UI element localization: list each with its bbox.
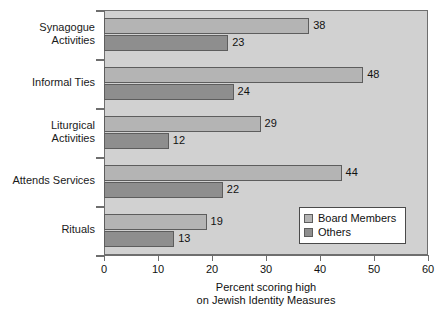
legend-swatch-icon-others: [304, 228, 313, 237]
legend-label-board-members: Board Members: [318, 213, 396, 224]
y-axis-tick: [96, 59, 104, 61]
x-axis-tick-label: 60: [413, 263, 443, 275]
x-axis-line: [104, 255, 428, 256]
x-axis-title-line-2: on Jewish Identity Measures: [104, 294, 428, 307]
legend-swatch-icon-board-members: [304, 214, 313, 223]
x-axis-tick-label: 40: [305, 263, 335, 275]
bar-0-4: [104, 214, 207, 230]
y-axis-tick: [96, 157, 104, 159]
x-axis-tick-label: 30: [251, 263, 281, 275]
x-axis-tick: [428, 255, 429, 261]
bar-chart: Synagogue Activities3823Informal Ties482…: [0, 0, 448, 321]
bar-1-0: [104, 35, 228, 51]
bar-value-label: 29: [265, 118, 277, 129]
category-label: Informal Ties: [0, 76, 95, 89]
bar-0-3: [104, 165, 342, 181]
x-axis-tick-label: 50: [359, 263, 389, 275]
bar-1-1: [104, 84, 234, 100]
legend: Board Members Others: [299, 207, 406, 244]
category-label: Synagogue Activities: [0, 21, 95, 46]
bar-value-label: 22: [227, 184, 239, 195]
bar-0-0: [104, 18, 309, 34]
bar-value-label: 23: [232, 37, 244, 48]
x-axis-tick-label: 20: [197, 263, 227, 275]
x-axis-tick-label: 10: [143, 263, 173, 275]
bar-1-4: [104, 231, 174, 247]
legend-label-others: Others: [318, 227, 351, 238]
bar-1-3: [104, 182, 223, 198]
x-axis-title-line-1: Percent scoring high: [104, 281, 428, 294]
x-axis-tick-label: 0: [89, 263, 119, 275]
y-axis-tick: [96, 255, 104, 257]
y-axis-tick: [96, 206, 104, 208]
bar-value-label: 12: [173, 135, 185, 146]
bar-value-label: 13: [178, 233, 190, 244]
y-axis-tick: [96, 108, 104, 110]
bar-1-2: [104, 133, 169, 149]
category-label: Liturgical Activities: [0, 119, 95, 144]
bar-0-1: [104, 67, 363, 83]
bar-0-2: [104, 116, 261, 132]
bar-value-label: 48: [367, 69, 379, 80]
bar-value-label: 19: [211, 216, 223, 227]
bar-value-label: 44: [346, 167, 358, 178]
category-label: Attends Services: [0, 174, 95, 187]
legend-item-others: Others: [304, 225, 401, 239]
y-axis-tick: [96, 10, 104, 12]
x-axis-title: Percent scoring high on Jewish Identity …: [104, 281, 428, 306]
bar-value-label: 38: [313, 20, 325, 31]
category-label: Rituals: [0, 223, 95, 236]
bar-value-label: 24: [238, 86, 250, 97]
legend-item-board-members: Board Members: [304, 211, 401, 225]
